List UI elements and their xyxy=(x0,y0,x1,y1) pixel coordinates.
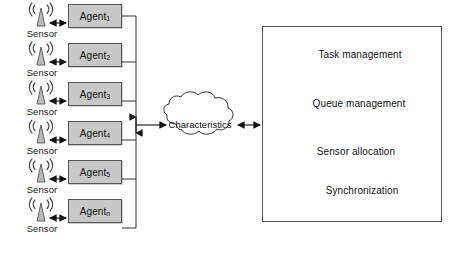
sensor-unit[interactable]: Sensor xyxy=(16,158,68,200)
block-label-sensor-allocation: Sensor allocation xyxy=(282,146,430,157)
agent-name: Agent xyxy=(80,128,107,139)
sensor-label: Sensor xyxy=(14,67,70,78)
agent-name: Agent xyxy=(80,50,107,61)
agent-subscript: 5 xyxy=(106,171,110,178)
agent-subscript: 2 xyxy=(106,54,110,61)
agent-row: Sensor Agent1 xyxy=(0,2,140,44)
agent-row: Sensor Agent4 xyxy=(0,119,140,161)
sensor-label: Sensor xyxy=(14,28,70,39)
agent-subscript: 3 xyxy=(106,93,110,100)
agent-box[interactable]: Agent3 xyxy=(68,82,122,106)
sensor-unit[interactable]: Sensor xyxy=(16,197,68,239)
antenna-sensor-icon xyxy=(24,80,58,106)
agent-box[interactable]: Agent1 xyxy=(68,4,122,28)
sensor-unit[interactable]: Sensor xyxy=(16,41,68,83)
agent-subscript: 4 xyxy=(106,132,110,139)
block-label-queue-management: Queue management xyxy=(282,98,436,109)
agent-box[interactable]: Agent4 xyxy=(68,121,122,145)
sensor-label: Sensor xyxy=(14,184,70,195)
agent-row: Sensor Agentn xyxy=(0,197,140,239)
antenna-sensor-icon xyxy=(24,197,58,223)
sensor-unit[interactable]: Sensor xyxy=(16,2,68,44)
antenna-sensor-icon xyxy=(24,119,58,145)
sensor-label: Sensor xyxy=(14,106,70,117)
sensor-label: Sensor xyxy=(14,145,70,156)
sensor-label: Sensor xyxy=(14,223,70,234)
agent-row: Sensor Agent5 xyxy=(0,158,140,200)
agent-row: Sensor Agent3 xyxy=(0,80,140,122)
agent-box[interactable]: Agent5 xyxy=(68,160,122,184)
antenna-sensor-icon xyxy=(24,41,58,67)
block-label-synchronization: Synchronization xyxy=(288,185,436,196)
agent-name: Agent xyxy=(80,167,107,178)
block-label-task-management: Task management xyxy=(284,49,436,60)
agent-name: Agent xyxy=(80,89,107,100)
agent-row: Sensor Agent2 xyxy=(0,41,140,83)
sensor-unit[interactable]: Sensor xyxy=(16,80,68,122)
agent-box[interactable]: Agent2 xyxy=(68,43,122,67)
architecture-diagram: Sensor Agent1 Sensor Agent2 xyxy=(0,0,450,270)
antenna-sensor-icon xyxy=(24,2,58,28)
agent-box[interactable]: Agentn xyxy=(68,199,122,223)
antenna-sensor-icon xyxy=(24,158,58,184)
agent-name: Agent xyxy=(80,206,107,217)
agent-subscript: n xyxy=(106,210,110,217)
agent-subscript: 1 xyxy=(106,15,110,22)
cloud-label: Characteristics xyxy=(157,119,243,130)
sensor-unit[interactable]: Sensor xyxy=(16,119,68,161)
agent-name: Agent xyxy=(80,11,107,22)
